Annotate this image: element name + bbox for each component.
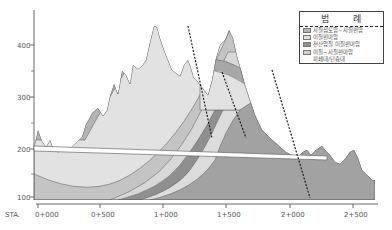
y-tick-label: 400 [17,42,30,50]
legend-swatch [303,57,311,62]
legend-swatch [303,28,311,33]
legend-label: 천산암질 이질편마암 [313,41,360,48]
legend-swatch [303,50,311,55]
y-axis: 400 300 200 100 [17,10,34,202]
x-axis: STA. 0+000 0+500 1+000 1+500 2+000 2+500 [5,204,378,219]
x-tick-label: 1+000 [154,211,178,219]
y-tick-label: 100 [17,194,30,202]
x-tick-label: 0+500 [91,211,115,219]
legend-label: 파쇄대/단층대 [313,56,345,63]
legend-entry: 이질~사질편마암 [300,49,383,56]
legend-entry: 파쇄대/단층대 [300,56,383,63]
legend-label: 이질~사질편마암 [313,49,353,56]
station-label: STA. [5,211,20,219]
x-tick-label: 0+000 [35,211,59,219]
legend-entry: 천산암질 이질편마암 [300,41,383,48]
legend-title-left: 범 [321,12,331,26]
y-tick-label: 300 [17,94,30,102]
x-tick-label: 2+000 [281,211,305,219]
x-tick-label: 2+500 [344,211,368,219]
legend-title: 범 례 [300,12,383,27]
legend-title-right: 례 [353,12,363,26]
legend: 범 례 사질점토암~사질편암 이질편마암 천산암질 이질편마암 이질~사질편마암… [299,11,384,64]
legend-swatch [303,35,311,40]
y-tick-label: 200 [17,146,30,154]
legend-swatch [303,42,311,47]
x-tick-label: 1+500 [217,211,241,219]
